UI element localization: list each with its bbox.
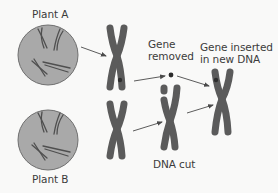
cut-chromosome [164, 88, 177, 147]
dna-cut-label: DNA cut [153, 158, 195, 170]
arrow-chromosome-to-gene [134, 76, 165, 81]
gene-removed-label-line1: Gene [148, 38, 175, 50]
arrow-cut-to-new-chromosome [187, 105, 213, 113]
inserted-gene-spot-icon [214, 78, 218, 82]
gene-spot-icon [118, 78, 122, 82]
chromosome-a [110, 28, 124, 87]
plant-b-cell [18, 110, 78, 170]
arrow-plant-a-to-chromosome [81, 47, 106, 56]
removed-gene-icon [169, 73, 174, 78]
arrow-gene-to-new-chromosome [177, 76, 209, 86]
gene-inserted-label-line1: Gene inserted [200, 41, 273, 53]
plant-a-cell [18, 25, 78, 85]
chromosome-b [110, 104, 124, 156]
plant-b-label: Plant B [32, 173, 68, 185]
gene-inserted-label-line2: in new DNA [200, 53, 260, 65]
plant-a-label: Plant A [32, 8, 68, 20]
diagram-artwork [0, 0, 278, 193]
arrow-chromosome-b-to-cut [133, 122, 162, 131]
genetic-engineering-diagram: Plant A Plant B Gene removed Gene insert… [0, 0, 278, 193]
gene-removed-label-line2: removed [148, 50, 194, 62]
